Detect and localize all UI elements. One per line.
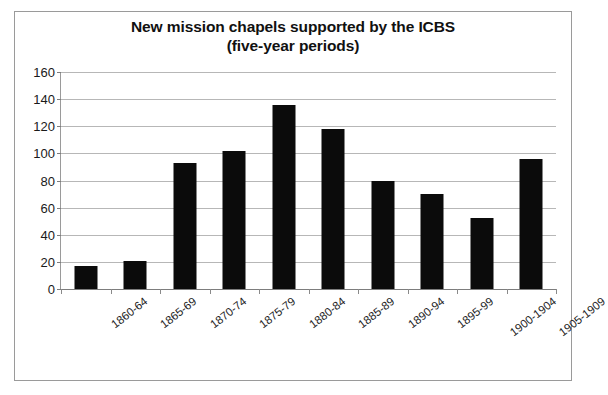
x-axis-tick <box>309 289 310 294</box>
bar[interactable] <box>470 218 493 289</box>
bar-slot <box>259 72 309 289</box>
bar-slot <box>210 72 260 289</box>
chart-title: New mission chapels supported by the ICB… <box>15 17 571 55</box>
x-axis-label: 1885-89 <box>356 295 397 330</box>
chart-title-line-2: (five-year periods) <box>15 36 571 55</box>
x-axis-tick <box>358 289 359 294</box>
x-axis-tick <box>457 289 458 294</box>
x-axis-label: 1875-79 <box>257 295 298 330</box>
y-axis-tick-label: 160 <box>33 65 55 80</box>
y-axis-tick-label: 40 <box>41 227 55 242</box>
bar-slot <box>160 72 210 289</box>
y-axis-tick-label: 140 <box>33 92 55 107</box>
bar-slot <box>358 72 408 289</box>
bar[interactable] <box>223 151 246 289</box>
bar-slot <box>457 72 507 289</box>
x-axis-tick <box>507 289 508 294</box>
bar-series <box>61 72 556 289</box>
chart-frame: New mission chapels supported by the ICB… <box>14 11 572 381</box>
x-axis-label: 1905-1909 <box>557 295 608 338</box>
y-axis-tick-label: 80 <box>41 173 55 188</box>
bar[interactable] <box>272 105 295 289</box>
bar-slot <box>61 72 111 289</box>
x-axis-tick <box>210 289 211 294</box>
plot-area: 020406080100120140160 <box>61 72 556 289</box>
bar-slot <box>507 72 557 289</box>
bar-slot <box>408 72 458 289</box>
y-axis-tick-label: 100 <box>33 146 55 161</box>
bar[interactable] <box>421 194 444 289</box>
x-axis-tick <box>61 289 62 294</box>
x-axis-tick <box>408 289 409 294</box>
x-axis-labels: 1860-641865-691870-741875-791880-841885-… <box>61 295 556 375</box>
bar-slot <box>111 72 161 289</box>
x-axis-tick <box>111 289 112 294</box>
y-axis-tick-label: 20 <box>41 254 55 269</box>
x-axis-tick <box>556 289 557 294</box>
x-axis-tick <box>160 289 161 294</box>
x-axis-label: 1895-99 <box>455 295 496 330</box>
x-axis-tick <box>259 289 260 294</box>
bar-slot <box>309 72 359 289</box>
x-axis-label: 1865-69 <box>158 295 199 330</box>
bar[interactable] <box>173 163 196 289</box>
x-axis-label: 1900-1904 <box>507 295 558 338</box>
x-axis-label: 1890-94 <box>406 295 447 330</box>
y-axis-tick-label: 120 <box>33 119 55 134</box>
bar[interactable] <box>371 181 394 290</box>
x-axis-label: 1880-84 <box>307 295 348 330</box>
chart-title-line-1: New mission chapels supported by the ICB… <box>15 17 571 36</box>
bar[interactable] <box>520 159 543 289</box>
bar[interactable] <box>124 261 147 289</box>
x-axis-label: 1870-74 <box>208 295 249 330</box>
y-axis-tick-label: 60 <box>41 200 55 215</box>
y-axis-tick-label: 0 <box>48 282 55 297</box>
x-axis-label: 1860-64 <box>109 295 150 330</box>
bar[interactable] <box>322 129 345 289</box>
bar[interactable] <box>74 266 97 289</box>
